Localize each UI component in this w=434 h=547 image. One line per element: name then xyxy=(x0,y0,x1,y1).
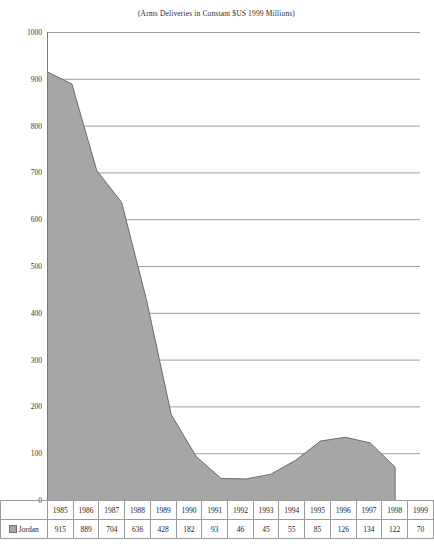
area-chart-svg xyxy=(47,32,420,501)
table-header-1993: 1993 xyxy=(253,501,279,520)
table-cell-1985: 915 xyxy=(48,520,74,539)
table-header-1996: 1996 xyxy=(330,501,356,520)
plot-area: 10009008007006005004003002001000 xyxy=(0,32,433,500)
table-header-1991: 1991 xyxy=(202,501,228,520)
y-axis-tick-600: 600 xyxy=(4,215,42,224)
table-header-row: 1985198619871988198919901991199219931994… xyxy=(1,501,434,520)
y-axis-tick-900: 900 xyxy=(4,74,42,83)
table-cell-1989: 428 xyxy=(150,520,176,539)
table-header-1992: 1992 xyxy=(228,501,254,520)
legend-series-cell: Jordan xyxy=(1,520,48,539)
y-axis-tick-1000: 1000 xyxy=(4,28,42,37)
table-cell-1998: 122 xyxy=(382,520,408,539)
y-axis-tick-300: 300 xyxy=(4,355,42,364)
table-cell-1996: 126 xyxy=(330,520,356,539)
y-axis-tick-500: 500 xyxy=(4,262,42,271)
table-cell-1999: 70 xyxy=(408,520,434,539)
table-header-1988: 1988 xyxy=(125,501,151,520)
table-cell-1993: 45 xyxy=(253,520,279,539)
table-header-1999: 1999 xyxy=(408,501,434,520)
table-cell-1991: 93 xyxy=(202,520,228,539)
data-table-container: 1985198619871988198919901991199219931994… xyxy=(0,500,433,539)
table-cell-1987: 704 xyxy=(99,520,125,539)
table-header-1985: 1985 xyxy=(48,501,74,520)
table-cell-1994: 55 xyxy=(279,520,305,539)
y-axis-tick-400: 400 xyxy=(4,308,42,317)
table-header-1995: 1995 xyxy=(305,501,331,520)
table-header-1989: 1989 xyxy=(150,501,176,520)
data-table: 1985198619871988198919901991199219931994… xyxy=(0,500,434,539)
table-cell-1990: 182 xyxy=(176,520,202,539)
table-cell-1997: 134 xyxy=(356,520,382,539)
area-chart-canvas xyxy=(47,32,420,500)
y-axis-tick-800: 800 xyxy=(4,121,42,130)
table-cell-1992: 46 xyxy=(228,520,254,539)
y-axis-tick-100: 100 xyxy=(4,449,42,458)
table-row: Jordan 915889704636428182934645558512613… xyxy=(1,520,434,539)
y-axis-tick-200: 200 xyxy=(4,402,42,411)
table-cell-1988: 636 xyxy=(125,520,151,539)
table-cell-1995: 85 xyxy=(305,520,331,539)
table-corner-cell xyxy=(1,501,48,520)
page-title: (Arms Deliveries in Constant $US 1999 Mi… xyxy=(0,9,433,18)
table-header-1994: 1994 xyxy=(279,501,305,520)
table-header-1998: 1998 xyxy=(382,501,408,520)
table-header-1997: 1997 xyxy=(356,501,382,520)
y-axis-tick-labels: 10009008007006005004003002001000 xyxy=(0,32,42,500)
table-header-1990: 1990 xyxy=(176,501,202,520)
series-area-jordan xyxy=(47,72,395,500)
table-header-1987: 1987 xyxy=(99,501,125,520)
table-header-1986: 1986 xyxy=(73,501,99,520)
y-axis-tick-700: 700 xyxy=(4,168,42,177)
square-swatch-icon xyxy=(9,525,17,533)
table-cell-1986: 889 xyxy=(73,520,99,539)
legend-series-label: Jordan xyxy=(19,525,39,534)
